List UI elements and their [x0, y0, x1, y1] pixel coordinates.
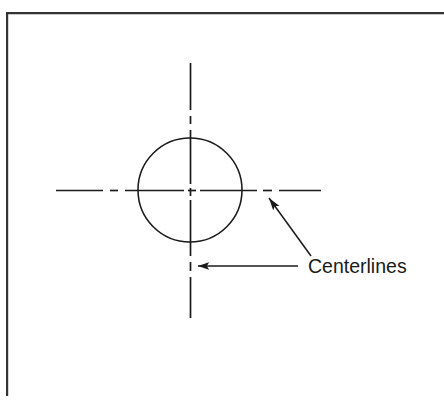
figure-container: Centerlines [0, 0, 444, 401]
leader-to-horizontal-centerline [269, 198, 311, 256]
technical-drawing-canvas: Centerlines [0, 0, 444, 401]
centerlines-label: Centerlines [308, 255, 407, 277]
